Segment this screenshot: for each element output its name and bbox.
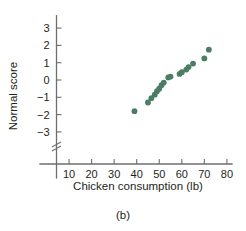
y-tick-label: 1 [43, 57, 49, 69]
x-tick-label: 50 [153, 168, 165, 180]
x-axis-title: Chicken consumption (lb) [73, 180, 203, 192]
y-tick-label: 2 [43, 39, 49, 51]
x-tick-label: 80 [221, 168, 233, 180]
y-tick-label: 3 [43, 22, 49, 34]
data-point [190, 61, 196, 67]
y-tick-label: −3 [37, 126, 50, 138]
y-tick-label: −1 [37, 91, 50, 103]
x-tick-label: 10 [63, 168, 75, 180]
x-tick-label: 60 [176, 168, 188, 180]
data-point [201, 55, 207, 61]
figure-caption: (b) [116, 209, 130, 221]
plot-axes [40, 16, 232, 178]
data-point [206, 47, 212, 53]
x-axis-tick-labels: 1020304050607080 [63, 168, 233, 180]
scatter-data-points [132, 47, 212, 114]
x-tick-label: 30 [108, 168, 120, 180]
y-axis-title: Normal score [7, 62, 19, 130]
x-axis-ticks [69, 159, 227, 164]
x-tick-label: 40 [131, 168, 143, 180]
normal-probability-plot-figure: −3−2−10123 1020304050607080 Normal score… [0, 0, 246, 231]
data-point [168, 74, 174, 80]
data-point [161, 80, 167, 86]
y-tick-label: −2 [37, 109, 50, 121]
scatter-plot-svg: −3−2−10123 1020304050607080 Normal score… [0, 0, 246, 231]
y-tick-label: 0 [43, 74, 49, 86]
y-axis-ticks [57, 28, 62, 132]
y-axis-tick-labels: −3−2−10123 [37, 22, 50, 138]
data-point [132, 108, 138, 114]
x-tick-label: 20 [85, 168, 97, 180]
x-tick-label: 70 [198, 168, 210, 180]
